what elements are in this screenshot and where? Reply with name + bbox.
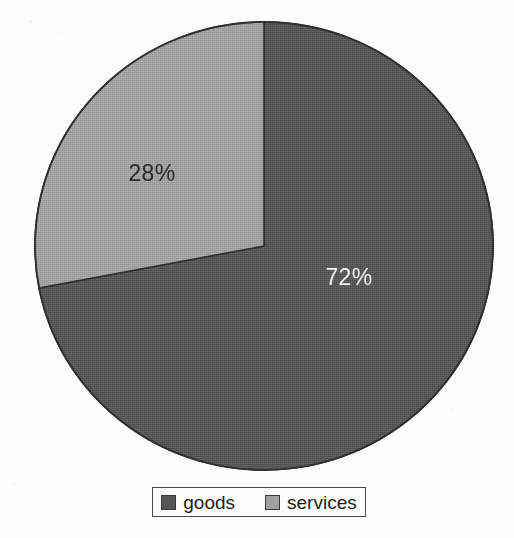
legend-swatch-goods-icon [161,495,176,510]
legend-label-goods: goods [183,493,235,512]
legend-label-services: services [287,493,357,512]
legend-item-services[interactable]: services [265,493,357,512]
pie-slice-services[interactable] [35,22,264,288]
chart-legend: goods services [152,487,366,517]
legend-item-goods[interactable]: goods [161,493,235,512]
pie-chart: 28% 72% goods services [0,0,514,538]
pie-label-services: 28% [129,160,176,187]
pie-label-goods: 72% [326,264,373,291]
legend-swatch-services-icon [265,495,280,510]
pie-chart-svg [0,0,514,538]
